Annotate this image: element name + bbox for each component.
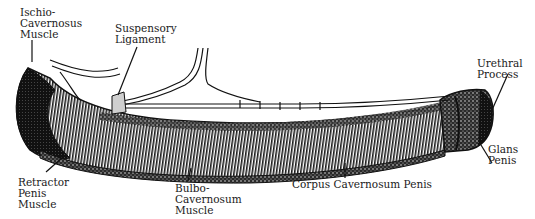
label-retractor-penis-muscle: Retractor Penis Muscle (18, 177, 69, 210)
glans (440, 89, 493, 152)
shaft-body (16, 68, 455, 183)
label-ischio-cavernosus-muscle: Ischio- Cavernosus Muscle (20, 7, 82, 40)
label-urethral-process: Urethral Process (477, 58, 523, 80)
dorsal-vessels (50, 48, 450, 110)
anatomy-diagram: Ischio- Cavernosus Muscle Suspensory Lig… (0, 0, 535, 219)
label-bulbo-cavernosum-muscle: Bulbo- Cavernosum Muscle (175, 183, 242, 216)
label-glans-penis: Glans Penis (488, 144, 518, 166)
label-suspensory-ligament: Suspensory Ligament (115, 23, 177, 45)
label-corpus-cavernosum-penis: Corpus Cavernosum Penis (292, 179, 432, 190)
suspensory-ligament-shape (112, 92, 126, 114)
